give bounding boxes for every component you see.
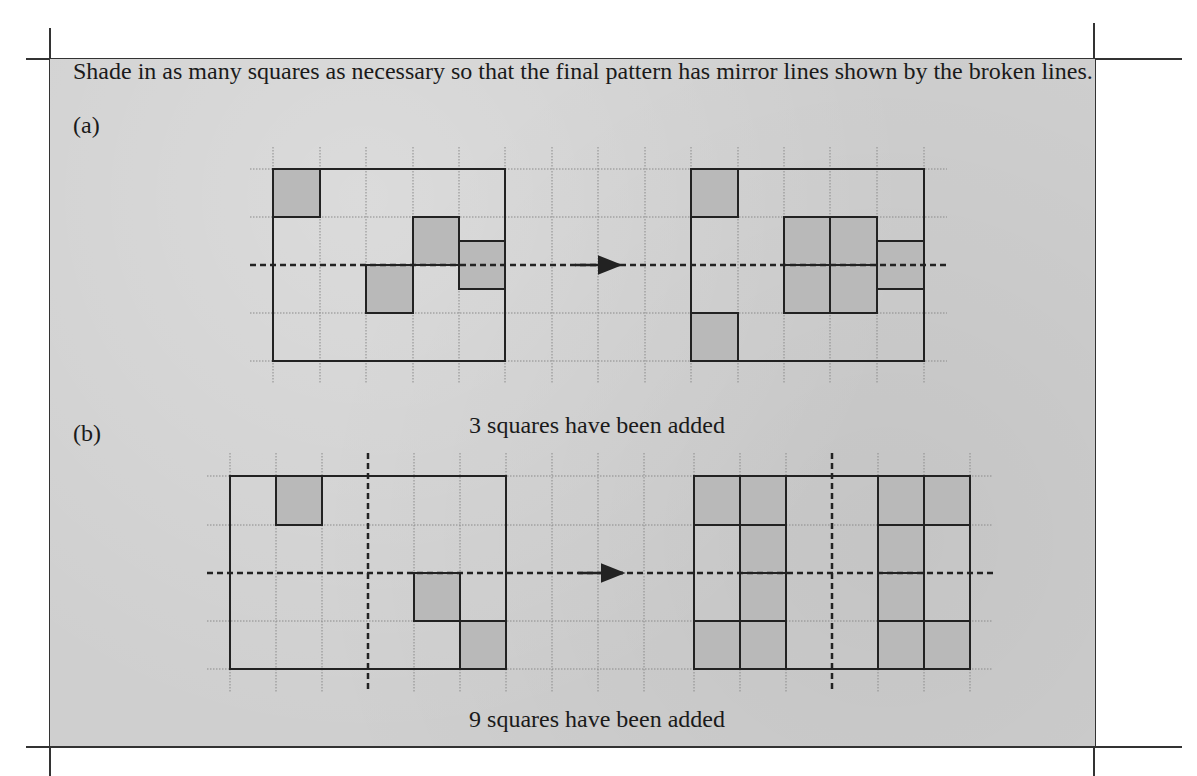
symmetry-figures bbox=[0, 0, 1197, 776]
part-a-original-shaded bbox=[273, 169, 505, 313]
